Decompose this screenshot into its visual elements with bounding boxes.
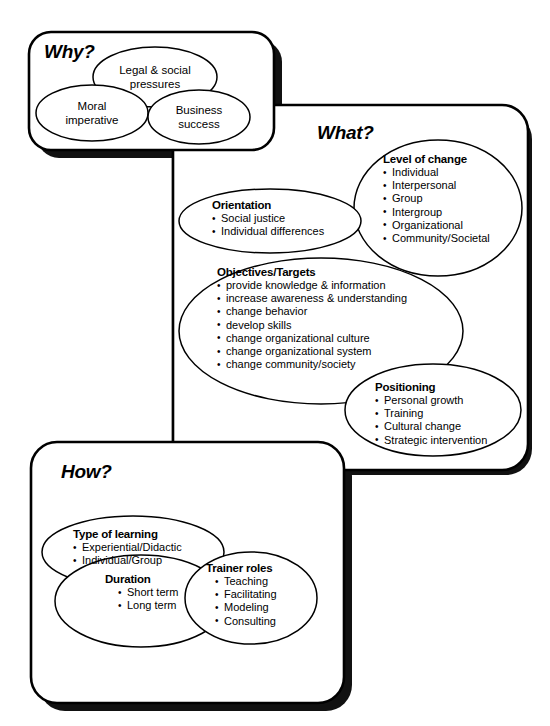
legal-social-pressures-line1: Legal & social xyxy=(105,63,205,77)
list-item: Organizational xyxy=(383,219,490,232)
list-item: Training xyxy=(375,407,487,420)
list-item: Intergroup xyxy=(383,206,490,219)
business-success-line1: Business xyxy=(149,103,249,117)
positioning-title: Positioning xyxy=(375,381,487,393)
what-panel-title: What? xyxy=(317,122,374,144)
level-of-change-title: Level of change xyxy=(383,153,490,165)
type-of-learning-title: Type of learning xyxy=(73,528,182,540)
legal-social-pressures-label: Legal & social pressures xyxy=(105,63,205,91)
list-item: Consulting xyxy=(215,615,277,628)
duration-title: Duration xyxy=(105,573,178,585)
list-item: change community/society xyxy=(217,358,407,371)
list-item: provide knowledge & information xyxy=(217,279,407,292)
list-item: Individual/Group xyxy=(73,554,182,567)
list-item: develop skills xyxy=(217,319,407,332)
list-item: Interpersonal xyxy=(383,179,490,192)
moral-imperative-line1: Moral xyxy=(42,99,142,113)
duration-list: Short term Long term xyxy=(105,586,178,612)
business-success-line2: success xyxy=(149,117,249,131)
business-success-label: Business success xyxy=(149,103,249,131)
list-item: Short term xyxy=(118,586,178,599)
list-item: increase awareness & understanding xyxy=(217,292,407,305)
type-of-learning-list: Experiential/Didactic Individual/Group xyxy=(73,541,182,567)
list-item: Personal growth xyxy=(375,394,487,407)
list-item: Social justice xyxy=(212,212,324,225)
list-item: change organizational system xyxy=(217,345,407,358)
moral-imperative-line2: imperative xyxy=(42,113,142,127)
group-trainer-roles: Trainer roles Teaching Facilitating Mode… xyxy=(206,562,277,628)
group-level-of-change: Level of change Individual Interpersonal… xyxy=(383,153,490,245)
list-item: Individual xyxy=(383,166,490,179)
orientation-title: Orientation xyxy=(212,199,324,211)
trainer-roles-title: Trainer roles xyxy=(206,562,277,574)
list-item: change organizational culture xyxy=(217,332,407,345)
list-item: Experiential/Didactic xyxy=(73,541,182,554)
list-item: Cultural change xyxy=(375,420,487,433)
list-item: Facilitating xyxy=(215,588,277,601)
group-duration: Duration Short term Long term xyxy=(105,573,178,612)
how-panel-title: How? xyxy=(61,461,112,483)
objectives-targets-list: provide knowledge & information increase… xyxy=(217,279,407,371)
group-objectives-targets: Objectives/Targets provide knowledge & i… xyxy=(217,266,407,371)
moral-imperative-label: Moral imperative xyxy=(42,99,142,127)
why-panel-title: Why? xyxy=(44,41,95,63)
list-item: Strategic intervention xyxy=(375,434,487,447)
positioning-list: Personal growth Training Cultural change… xyxy=(375,394,487,447)
group-type-of-learning: Type of learning Experiential/Didactic I… xyxy=(73,528,182,567)
list-item: change behavior xyxy=(217,305,407,318)
list-item: Individual differences xyxy=(212,225,324,238)
objectives-targets-title: Objectives/Targets xyxy=(217,266,407,278)
group-positioning: Positioning Personal growth Training Cul… xyxy=(375,381,487,447)
list-item: Teaching xyxy=(215,575,277,588)
diagram-canvas: Why? Legal & social pressures Moral impe… xyxy=(0,0,550,726)
list-item: Group xyxy=(383,192,490,205)
trainer-roles-list: Teaching Facilitating Modeling Consultin… xyxy=(206,575,277,628)
list-item: Modeling xyxy=(215,601,277,614)
list-item: Community/Societal xyxy=(383,232,490,245)
level-of-change-list: Individual Interpersonal Group Intergrou… xyxy=(383,166,490,245)
orientation-list: Social justice Individual differences xyxy=(212,212,324,238)
list-item: Long term xyxy=(118,599,178,612)
group-orientation: Orientation Social justice Individual di… xyxy=(212,199,324,238)
legal-social-pressures-line2: pressures xyxy=(105,77,205,91)
